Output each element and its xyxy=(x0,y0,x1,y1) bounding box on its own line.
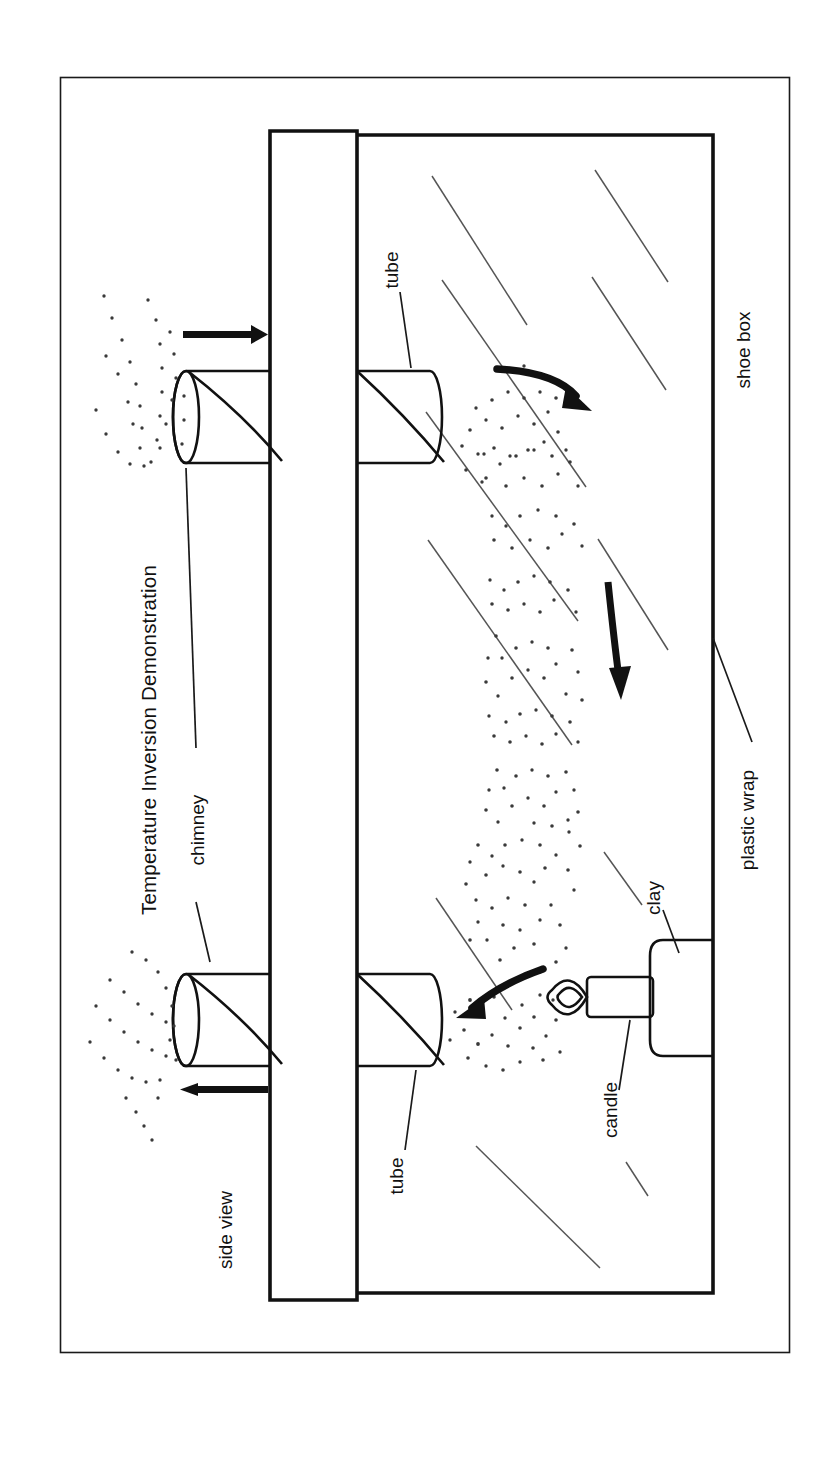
label-tube-upper: tube xyxy=(381,252,402,289)
label-plastic-wrap: plastic wrap xyxy=(737,770,758,870)
label-tube-lower: tube xyxy=(386,1158,407,1195)
label-side-view: side view xyxy=(215,1191,236,1269)
svg-text:tube: tube xyxy=(381,252,402,289)
label-candle: candle xyxy=(600,1082,621,1138)
label-clay: clay xyxy=(643,881,664,915)
svg-text:candle: candle xyxy=(600,1082,621,1138)
svg-text:chimney: chimney xyxy=(187,794,208,865)
label-chimney: chimney xyxy=(187,794,208,865)
diagram-canvas: Temperature Inversion Demonstration chim… xyxy=(0,0,839,1463)
svg-text:tube: tube xyxy=(386,1158,407,1195)
svg-text:plastic wrap: plastic wrap xyxy=(737,770,758,870)
label-title: Temperature Inversion Demonstration xyxy=(137,565,160,915)
svg-text:side view: side view xyxy=(215,1191,236,1269)
label-shoe-box: shoe box xyxy=(733,311,754,389)
svg-text:clay: clay xyxy=(643,881,664,915)
svg-text:Temperature Inversion Demonstr: Temperature Inversion Demonstration xyxy=(137,565,160,915)
svg-text:shoe box: shoe box xyxy=(733,311,754,389)
